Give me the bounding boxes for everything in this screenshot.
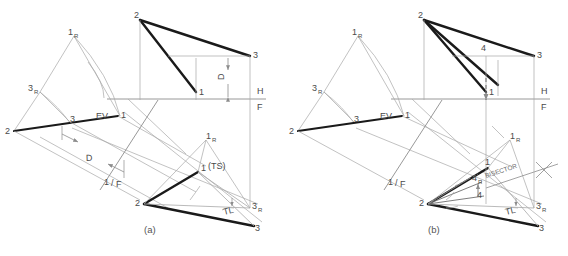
- label-fold-1f-slash-a: /: [111, 178, 114, 188]
- label-pt-1-front-b: 1: [405, 110, 410, 120]
- label-pt-1r-lower-b-sub: R: [516, 137, 521, 143]
- label-pt-1r-lower: 1: [206, 131, 211, 141]
- label-pt-3-top-b: 3: [537, 50, 542, 60]
- label-pt-4-lower-b: 4: [477, 190, 482, 200]
- label-true-size-a: (TS): [208, 161, 226, 171]
- label-pt-4r-lower-b: 4: [472, 173, 477, 183]
- label-pt-3-lower: 3: [255, 223, 260, 233]
- label-pt-2-lower-b: 2: [419, 198, 424, 208]
- point-labels-b: 1 R 3 R 2 3 1 2 4 3 1 1 R 1 4 R 4 2 3 R …: [289, 10, 547, 233]
- annotations-b: EV BISECTOR TL H F 1 / F: [380, 86, 548, 217]
- label-edge-view-a: EV: [96, 111, 108, 121]
- label-dimension-d-horizontal-a: D: [86, 153, 93, 163]
- point-labels-a: 1 R 3 R 2 3 1 2 3 1 1 R 1 2 3 R 3: [5, 10, 263, 233]
- label-pt-1r-aux-sub: R: [74, 33, 79, 39]
- label-pt-3r-lower-b: 3: [536, 201, 541, 211]
- caption-a: (a): [144, 224, 156, 235]
- label-pt-2-top: 2: [134, 10, 139, 20]
- projectors-top-b: [424, 20, 534, 100]
- label-fold-1f-f-b: F: [400, 179, 406, 189]
- label-pt-4r-lower-b-sub: R: [478, 179, 483, 185]
- diagram-b-group: 1 R 3 R 2 3 1 2 4 3 1 1 R 1 4 R 4 2 3 R …: [289, 10, 558, 233]
- label-fold-1f-f-a: F: [116, 179, 122, 189]
- true-size-view-a: [144, 100, 254, 226]
- label-edge-view-b: EV: [380, 111, 392, 121]
- label-fold-1f-b: 1: [388, 177, 393, 187]
- label-true-length-a: TL: [222, 205, 235, 217]
- label-pt-3r-lower: 3: [252, 201, 257, 211]
- top-view-fan-b: [424, 20, 534, 92]
- label-pt-2-lower: 2: [135, 198, 140, 208]
- dimension-d-horizontal-a: [62, 126, 124, 178]
- label-fold-1f-slash-b: /: [395, 178, 398, 188]
- label-pt-1r-aux: 1: [68, 27, 73, 37]
- label-pt-1-top-b: 1: [489, 87, 494, 97]
- label-h-b: H: [541, 86, 548, 96]
- label-true-length-b: TL: [504, 205, 517, 217]
- label-pt-1r-lower-b: 1: [510, 131, 515, 141]
- label-pt-3r-aux-b: 3: [312, 83, 317, 93]
- label-pt-1-lower: 1: [201, 163, 206, 173]
- label-pt-1-lower-b: 1: [485, 157, 490, 167]
- fold-line-hf-a: [107, 93, 266, 99]
- label-pt-3r-lower-b-sub: R: [542, 207, 547, 213]
- label-pt-1r-aux-b-sub: R: [358, 33, 363, 39]
- label-pt-3r-aux-sub: R: [34, 89, 39, 95]
- label-pt-3-front-b: 3: [354, 114, 359, 124]
- label-f-a: F: [257, 102, 263, 112]
- label-dimension-d-vertical-a: D: [216, 73, 226, 80]
- diagram-a-group: 1 R 3 R 2 3 1 2 3 1 1 R 1 2 3 R 3 EV (TS…: [5, 10, 266, 233]
- label-pt-2-front: 2: [5, 126, 10, 136]
- caption-b: (b): [428, 224, 440, 235]
- label-pt-1r-lower-sub: R: [212, 137, 217, 143]
- label-pt-2-top-b: 2: [418, 10, 423, 20]
- label-pt-1-front: 1: [121, 110, 126, 120]
- label-pt-4-top-b: 4: [481, 43, 486, 53]
- engineering-drawing-figure: 1 R 3 R 2 3 1 2 3 1 1 R 1 2 3 R 3 EV (TS…: [0, 0, 568, 256]
- label-pt-3-top: 3: [253, 50, 258, 60]
- label-pt-3-front: 3: [70, 114, 75, 124]
- label-pt-3r-aux: 3: [28, 83, 33, 93]
- label-pt-3r-aux-b-sub: R: [318, 89, 323, 95]
- projectors-top-a: [140, 20, 250, 100]
- figure-canvas: 1 R 3 R 2 3 1 2 3 1 1 R 1 2 3 R 3 EV (TS…: [0, 0, 568, 256]
- label-pt-1r-aux-b: 1: [352, 27, 357, 37]
- label-f-b: F: [541, 102, 547, 112]
- label-pt-3r-lower-sub: R: [258, 207, 263, 213]
- label-pt-3-lower-b: 3: [539, 223, 544, 233]
- label-h-a: H: [257, 86, 264, 96]
- label-fold-1f-a: 1: [104, 177, 109, 187]
- label-pt-2-front-b: 2: [289, 126, 294, 136]
- label-pt-1-top: 1: [199, 87, 204, 97]
